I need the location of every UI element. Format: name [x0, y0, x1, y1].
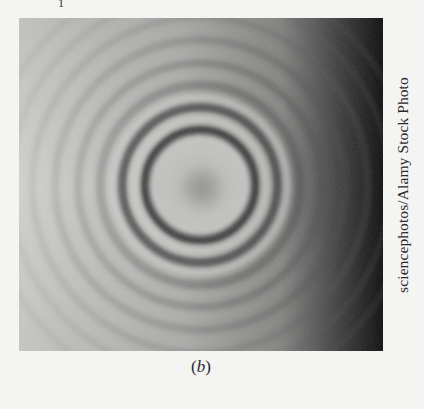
- rings-image: [19, 18, 383, 351]
- caption-close-paren: ): [205, 357, 211, 376]
- figure-caption: (b): [0, 357, 424, 377]
- photo-credit: sciencephotos/Alamy Stock Photo: [394, 77, 412, 293]
- caption-letter: b: [197, 357, 206, 376]
- interference-rings-photo: [19, 18, 383, 351]
- cropped-text-fragment: 1: [58, 0, 64, 9]
